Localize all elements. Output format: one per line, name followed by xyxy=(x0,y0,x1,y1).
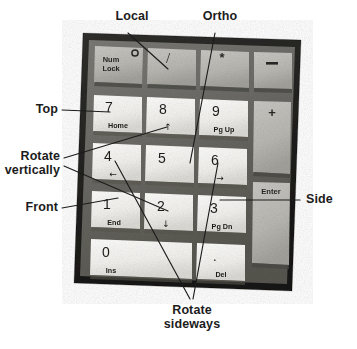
key-5 xyxy=(145,145,194,183)
svg-text:Num: Num xyxy=(103,55,120,64)
svg-text:Ins: Ins xyxy=(106,266,116,275)
keypad-row-5: 0 Ins . Del xyxy=(90,239,245,285)
svg-text:Enter: Enter xyxy=(261,187,280,196)
svg-text:Pg Up: Pg Up xyxy=(214,125,235,134)
svg-text:Lock: Lock xyxy=(102,64,120,73)
svg-text:End: End xyxy=(107,218,121,227)
svg-text:2: 2 xyxy=(157,198,165,214)
keypad-row-3: 4 ← 5 6 → xyxy=(92,143,247,189)
svg-text:4: 4 xyxy=(104,148,112,164)
svg-text:Pg Dn: Pg Dn xyxy=(212,222,233,231)
svg-text:9: 9 xyxy=(212,103,220,119)
key-slash xyxy=(147,48,196,86)
svg-text:←: ← xyxy=(109,169,117,179)
svg-text:.: . xyxy=(213,249,217,264)
key-minus xyxy=(254,52,292,89)
svg-text:0: 0 xyxy=(102,244,110,260)
svg-text:↓: ↓ xyxy=(162,219,170,229)
callout-top: Top xyxy=(2,103,58,117)
svg-text:7: 7 xyxy=(105,99,113,115)
callout-rotate-sideways: Rotate sideways xyxy=(156,304,228,331)
callout-rotate-vertically: Rotate vertically xyxy=(2,150,60,177)
keypad-row-1: Num Lock / * xyxy=(94,46,292,93)
svg-text:→: → xyxy=(216,173,224,183)
callout-front: Front xyxy=(2,201,58,215)
svg-text:5: 5 xyxy=(158,150,166,166)
figure-numeric-keypad-annotated: Num Lock / * 7 Home 8 xyxy=(0,0,357,349)
svg-text:1: 1 xyxy=(103,196,111,212)
svg-text:Del: Del xyxy=(215,270,226,279)
callout-local: Local xyxy=(104,10,160,24)
callout-ortho: Ortho xyxy=(192,10,248,24)
svg-text:8: 8 xyxy=(159,101,167,117)
svg-text:Home: Home xyxy=(108,121,128,130)
svg-text:+: + xyxy=(268,105,276,120)
callout-side: Side xyxy=(306,193,354,207)
